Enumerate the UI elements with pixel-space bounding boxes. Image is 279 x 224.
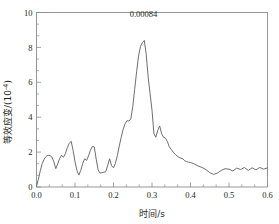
svg-text:等效应变/(10-4): 等效应变/(10-4) (2, 80, 13, 144)
y-tick-label: 2 (28, 147, 32, 157)
x-tick-label: 0.6 (262, 190, 273, 200)
y-axis-title: 等效应变/(10-4) (2, 80, 13, 144)
x-tick-label: 0.2 (108, 190, 119, 200)
y-axis-title-suffix: ) (3, 80, 13, 84)
x-tick-label: 0.0 (31, 190, 42, 200)
x-tick-label: 0.5 (224, 190, 235, 200)
y-tick-label: 4 (28, 112, 33, 122)
data-series-line (37, 40, 268, 186)
y-tick-label: 6 (28, 77, 32, 87)
chart-container: 等效应变/(10-4) 时间/s 0.00.10.20.30.40.50.602… (0, 0, 279, 224)
x-axis-title: 时间/s (139, 208, 165, 219)
y-tick-label: 0 (28, 182, 32, 192)
y-tick-label: 8 (28, 43, 32, 53)
y-axis-title-main: 等效应变/(10 (2, 90, 13, 144)
x-axis-title-label: 时间/s (139, 208, 165, 219)
strain-time-line-chart: 等效应变/(10-4) 时间/s 0.00.10.20.30.40.50.602… (0, 0, 279, 224)
plot-frame (37, 13, 268, 188)
x-tick-label: 0.3 (147, 190, 158, 200)
peak-annotation: 0.00084 (130, 9, 158, 19)
x-tick-label: 0.1 (70, 190, 81, 200)
axis-ticks (37, 13, 268, 188)
y-tick-label: 10 (24, 8, 33, 18)
axis-tick-labels: 0.00.10.20.30.40.50.60246810 (24, 8, 273, 200)
x-tick-label: 0.4 (185, 190, 196, 200)
peak-value-label: 0.00084 (130, 9, 158, 19)
